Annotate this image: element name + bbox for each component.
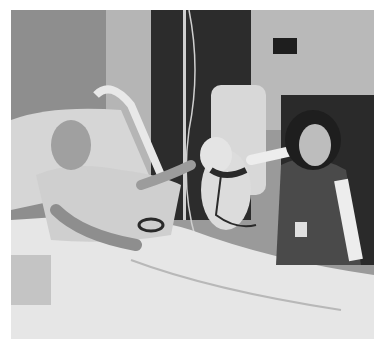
hospital-therapy-dog-photo <box>11 10 374 339</box>
tray-table <box>11 255 51 305</box>
photo-scene <box>11 10 374 339</box>
wall-box <box>273 38 297 54</box>
woman-face <box>299 124 331 166</box>
id-badge <box>295 222 307 237</box>
dog-head <box>200 137 232 173</box>
iv-pole <box>183 10 186 220</box>
patient-head <box>51 120 91 170</box>
